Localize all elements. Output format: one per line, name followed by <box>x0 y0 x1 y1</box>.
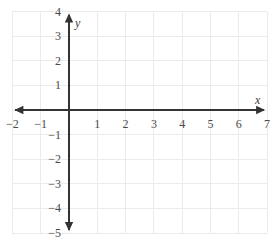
x-tick-label: 5 <box>196 118 226 130</box>
coordinate-plane-graph: −2−112345674321−1−2−3−4−5 x y <box>0 0 276 248</box>
x-tick-label: 3 <box>139 118 169 130</box>
y-tick-label: 3 <box>31 30 61 42</box>
x-tick-label: 6 <box>224 118 254 130</box>
y-tick-label: −4 <box>31 202 61 214</box>
x-tick-label: 2 <box>111 118 141 130</box>
x-tick-label: 1 <box>82 118 112 130</box>
x-tick-label: 7 <box>252 118 276 130</box>
x-axis-arrow-left <box>14 106 23 114</box>
y-tick-label: −2 <box>31 153 61 165</box>
x-axis-arrow-right <box>256 106 265 114</box>
y-tick-label: 1 <box>31 79 61 91</box>
y-tick-label: 2 <box>31 55 61 67</box>
y-tick-label: −3 <box>31 178 61 190</box>
y-tick-label: −5 <box>31 227 61 239</box>
x-tick-label: −2 <box>0 118 27 130</box>
y-tick-label: −1 <box>31 129 61 141</box>
y-tick-label: 4 <box>31 6 61 18</box>
y-axis-arrow-down <box>65 222 73 231</box>
y-axis-arrow-up <box>65 14 73 23</box>
y-axis-label: y <box>75 17 80 29</box>
x-tick-label: 4 <box>167 118 197 130</box>
x-axis-label: x <box>255 94 260 106</box>
